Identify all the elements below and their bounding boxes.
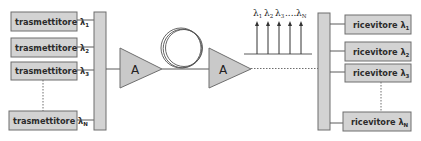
multiplexer — [94, 12, 106, 130]
spectrum-arrows — [255, 21, 303, 54]
spectrum-label-3: λ3 — [275, 8, 285, 19]
spectrum-label-2: λ2 — [264, 8, 273, 19]
transmitter-3: trasmettitore λ3 — [11, 62, 89, 80]
receiver-1: ricevitore λ1 — [345, 15, 411, 34]
svg-text:ricevitore λN: ricevitore λN — [351, 117, 409, 128]
fiber-coil — [161, 28, 209, 69]
receiver-n: ricevitore λN — [343, 112, 411, 131]
receiver-connectors — [330, 24, 345, 123]
svg-text:trasmettitore λN: trasmettitore λN — [13, 116, 88, 127]
spectrum-label-ellipsis: .... — [285, 8, 297, 18]
receiver-2: ricevitore λ2 — [345, 42, 411, 61]
amplifier-1: A — [120, 48, 162, 88]
svg-text:ricevitore λ1: ricevitore λ1 — [353, 20, 410, 31]
svg-text:ricevitore λ2: ricevitore λ2 — [353, 47, 410, 58]
svg-text:trasmettitore λ1: trasmettitore λ1 — [15, 17, 89, 28]
svg-text:A: A — [131, 63, 140, 77]
svg-text:trasmettitore λ3: trasmettitore λ3 — [15, 66, 89, 77]
svg-text:ricevitore λ3: ricevitore λ3 — [353, 68, 410, 79]
transmitter-1: trasmettitore λ1 — [11, 12, 89, 31]
wavelength-spectrum: λ1 λ2 λ3 .... λN — [244, 8, 312, 54]
transmitter-n: trasmettitore λN — [9, 111, 88, 130]
svg-text:trasmettitore λ2: trasmettitore λ2 — [15, 43, 89, 54]
wdm-diagram: trasmettitore λ1 trasmettitore λ2 trasme… — [0, 0, 421, 141]
spectrum-label-n: λN — [296, 8, 307, 19]
demultiplexer — [318, 13, 330, 130]
svg-text:A: A — [219, 63, 228, 77]
spectrum-label-1: λ1 — [253, 8, 262, 19]
receiver-3: ricevitore λ3 — [345, 64, 411, 82]
transmitter-connectors — [77, 20, 94, 120]
